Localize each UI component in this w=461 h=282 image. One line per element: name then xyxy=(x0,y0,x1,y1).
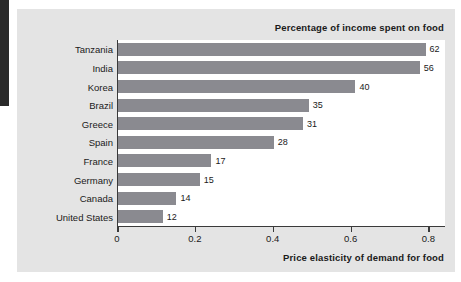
bar-value-label: 62 xyxy=(426,44,440,54)
plot-frame: 62564035312817151412 xyxy=(117,40,445,227)
category-label-slot: Germany xyxy=(37,173,113,186)
category-label-slot: Canada xyxy=(37,192,113,205)
category-label: Tanzania xyxy=(75,44,113,55)
category-label: Spain xyxy=(89,137,113,148)
bar-row: 17 xyxy=(118,154,445,167)
category-label: Germany xyxy=(74,174,113,185)
category-label: Greece xyxy=(82,118,113,129)
category-label-slot: Tanzania xyxy=(37,43,113,56)
category-label: Korea xyxy=(88,81,113,92)
bar-rect xyxy=(118,43,426,56)
bar-row: 40 xyxy=(118,80,445,93)
bar-value-label: 15 xyxy=(200,175,214,185)
bar-value-label: 17 xyxy=(211,156,225,166)
x-tick-label: 0 xyxy=(114,233,119,244)
plot-area: 62564035312817151412 xyxy=(118,40,445,226)
chart-title: Percentage of income spent on food xyxy=(275,22,444,33)
bar-value-label: 40 xyxy=(355,82,369,92)
bar-value-label: 12 xyxy=(163,212,177,222)
bar-row: 62 xyxy=(118,43,445,56)
category-label-slot: Brazil xyxy=(37,99,113,112)
bar-row: 31 xyxy=(118,117,445,130)
x-tick-mark xyxy=(117,227,119,232)
bar-value-label: 14 xyxy=(176,193,190,203)
category-label: Brazil xyxy=(89,100,113,111)
category-label: Canada xyxy=(80,193,113,204)
bar-value-label: 56 xyxy=(420,63,434,73)
category-label-slot: France xyxy=(37,154,113,167)
category-label-slot: United States xyxy=(37,210,113,223)
bar-value-label: 35 xyxy=(309,100,323,110)
bar-rect xyxy=(118,154,211,167)
bar-rect xyxy=(118,173,200,186)
figure-root: Percentage of income spent on food Tanza… xyxy=(0,0,461,282)
x-tick-label: 0.2 xyxy=(188,233,201,244)
bar-rect xyxy=(118,192,176,205)
bar-row: 15 xyxy=(118,173,445,186)
bar-value-label: 28 xyxy=(274,137,288,147)
bar-rect xyxy=(118,136,274,149)
category-label-slot: Spain xyxy=(37,136,113,149)
bar-row: 12 xyxy=(118,210,445,223)
x-tick-mark xyxy=(273,227,275,232)
x-tick-label: 0.8 xyxy=(422,233,435,244)
x-axis-ticks: 00.20.40.60.8 xyxy=(117,227,444,247)
bar-rect xyxy=(118,99,309,112)
category-label: India xyxy=(92,62,113,73)
chart-panel: Percentage of income spent on food Tanza… xyxy=(17,9,455,272)
bar-rect xyxy=(118,210,163,223)
bar-row: 28 xyxy=(118,136,445,149)
x-tick-label: 0.6 xyxy=(344,233,357,244)
bar-row: 35 xyxy=(118,99,445,112)
bar-rect xyxy=(118,80,355,93)
category-axis: TanzaniaIndiaKoreaBrazilGreeceSpainFranc… xyxy=(37,40,113,226)
category-label-slot: Korea xyxy=(37,80,113,93)
category-label: France xyxy=(83,155,113,166)
bar-row: 56 xyxy=(118,61,445,74)
category-label-slot: India xyxy=(37,61,113,74)
bar-rect xyxy=(118,117,303,130)
x-tick-mark xyxy=(195,227,197,232)
x-tick-label: 0.4 xyxy=(266,233,279,244)
x-tick-mark xyxy=(428,227,430,232)
category-label: United States xyxy=(56,211,113,222)
x-axis-label: Price elasticity of demand for food xyxy=(283,252,444,263)
page-edge-artifact xyxy=(0,0,9,106)
bar-row: 14 xyxy=(118,192,445,205)
x-tick-mark xyxy=(351,227,353,232)
bar-value-label: 31 xyxy=(303,119,317,129)
category-label-slot: Greece xyxy=(37,117,113,130)
bar-rect xyxy=(118,61,420,74)
